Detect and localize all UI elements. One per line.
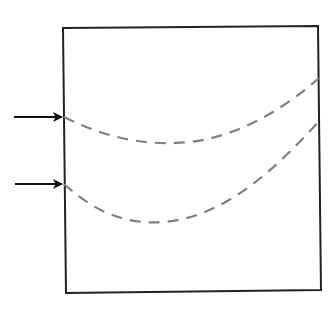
container-box xyxy=(63,26,321,293)
diagram-canvas xyxy=(0,0,334,309)
lower-dashed-curve xyxy=(64,119,321,222)
upper-dashed-curve xyxy=(64,78,319,143)
